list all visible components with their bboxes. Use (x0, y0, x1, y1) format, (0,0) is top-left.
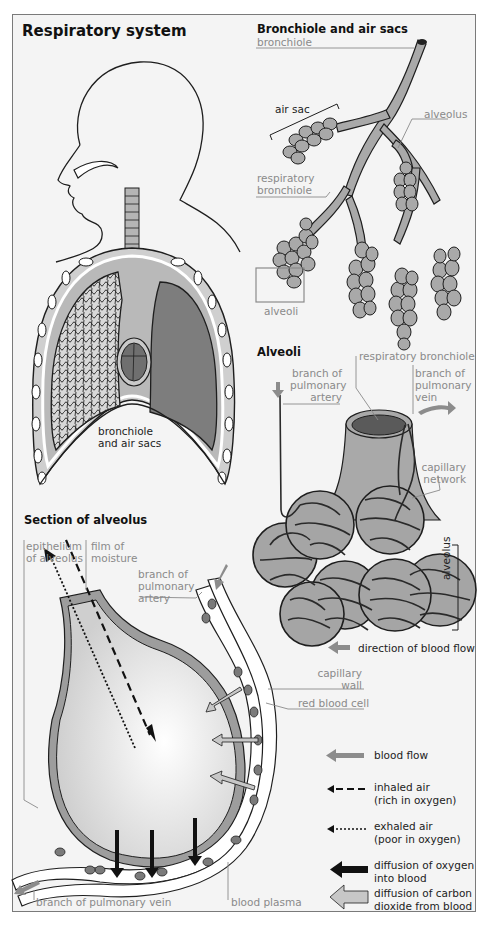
hollow-gray-arrow-icon (322, 887, 370, 903)
label-alveoli: alveoli (264, 305, 298, 317)
label-bronchiole: bronchiole (257, 36, 312, 48)
label-film-of-moisture: film of moisture (91, 540, 137, 564)
label-capillary-wall: capillary wall (300, 667, 362, 691)
label-red-blood-cell: red blood cell (298, 697, 369, 709)
label-capillary-network: capillary network (410, 461, 466, 485)
label-alveolus-bracket: alveolus (440, 537, 452, 581)
alveoli-title: Alveoli (257, 345, 301, 359)
label-epithelium: epithelium of alveolus (26, 540, 83, 564)
dashed-arrow-icon (322, 781, 370, 797)
label-branch-pulmonary-artery: branch of pulmonary artery (290, 367, 342, 403)
gray-arrow-icon (322, 749, 370, 765)
legend-item-oxygen-diffusion: diffusion of oxygen into blood (322, 859, 482, 889)
label-branch-pulmonary-vein-section: branch of pulmonary vein (36, 896, 171, 908)
dotted-arrow-icon (322, 820, 370, 836)
bronchiole-opening (417, 39, 427, 45)
legend-item-blood-flow: blood flow (322, 749, 482, 779)
nasal-passage (74, 161, 118, 178)
legend-item-co2-diffusion: diffusion of carbon dioxide from blood (322, 887, 482, 917)
human-silhouette (56, 62, 240, 262)
label-branch-pulmonary-vein: branch of pulmonary vein (415, 367, 472, 403)
label-respiratory-bronchiole: respiratory bronchiole (257, 172, 314, 196)
section-of-alveolus-title: Section of alveolus (24, 513, 147, 527)
legend-item-inhaled-air: inhaled air (rich in oxygen) (322, 781, 482, 811)
label-respiratory-bronchiole-3d: respiratory bronchiole (359, 350, 475, 362)
label-alveolus-top: alveolus (424, 108, 468, 120)
label-air-sac: air sac (275, 103, 310, 115)
respiratory-system-title: Respiratory system (22, 22, 187, 40)
bronchiole-air-sacs-title: Bronchiole and air sacs (257, 22, 408, 36)
label-branch-pulmonary-artery-section: branch of pulmonary artery (138, 568, 195, 604)
legend-item-exhaled-air: exhaled air (poor in oxygen) (322, 820, 482, 850)
label-blood-plasma: blood plasma (231, 896, 302, 908)
bronchiole-tree (306, 40, 440, 248)
black-arrow-icon (322, 859, 370, 875)
leader-alveolus (398, 119, 448, 148)
label-direction-of-blood-flow: direction of blood flow (358, 642, 475, 654)
label-bronchiole-air-sacs: bronchiole and air sacs (98, 425, 161, 449)
